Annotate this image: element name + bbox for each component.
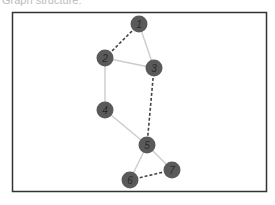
node-label: 3 (151, 63, 157, 74)
node-label: 5 (144, 140, 150, 151)
node-label: 2 (101, 53, 108, 64)
node-label: 4 (102, 105, 108, 116)
frame (13, 13, 267, 192)
node-1: 1 (131, 16, 148, 33)
node-3: 3 (146, 60, 163, 77)
node-label: 6 (127, 175, 133, 186)
node-2: 2 (97, 50, 114, 67)
node-7: 7 (164, 162, 181, 179)
graph-diagram: 1234567 (0, 0, 275, 205)
node-6: 6 (122, 172, 139, 189)
node-label: 1 (136, 19, 142, 30)
node-label: 7 (169, 165, 175, 176)
node-5: 5 (139, 137, 156, 154)
node-4: 4 (97, 102, 114, 119)
